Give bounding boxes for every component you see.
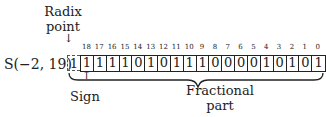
bit-index: 18 bbox=[80, 43, 93, 52]
bit-cell: 1 bbox=[120, 56, 133, 71]
bit-index: 13 bbox=[144, 43, 157, 52]
sign-arrow-icon: ↑ bbox=[82, 70, 91, 81]
bit-cell: 1 bbox=[94, 56, 107, 71]
bit-cell: 1 bbox=[197, 56, 210, 71]
bit-index: 9 bbox=[196, 43, 209, 52]
bit-index: 1 bbox=[298, 43, 311, 52]
bit-index: 17 bbox=[93, 43, 106, 52]
bit-cell: 0 bbox=[222, 56, 235, 71]
bit-cell: 0 bbox=[209, 56, 222, 71]
bit-cell: 0 bbox=[274, 56, 287, 71]
radix-arrow-icon: ↓ bbox=[64, 33, 73, 44]
bit-index: 15 bbox=[119, 43, 132, 52]
sign-label: Sign bbox=[70, 89, 100, 104]
bit-index: 0 bbox=[311, 43, 324, 52]
bit-cell: 0 bbox=[299, 56, 312, 71]
bit-index: 7 bbox=[221, 43, 234, 52]
fractional-label-line1: Fractional bbox=[180, 83, 260, 98]
bit-index: 11 bbox=[170, 43, 183, 52]
bit-cell: 0 bbox=[248, 56, 261, 71]
bit-index: 10 bbox=[183, 43, 196, 52]
bit-index: 14 bbox=[131, 43, 144, 52]
implied-leading-bit: 1 bbox=[67, 55, 80, 71]
bit-cell: 0 bbox=[235, 56, 248, 71]
bit-register: 1 1 1 1 0 1 0 1 1 1 0 0 0 0 1 0 1 0 1 bbox=[80, 55, 326, 72]
bit-cell: 1 bbox=[184, 56, 197, 71]
bit-index: 16 bbox=[106, 43, 119, 52]
format-label: S(−2, 19) bbox=[4, 56, 72, 72]
bit-cell: 1 bbox=[171, 56, 184, 71]
bit-cell: 1 bbox=[287, 56, 300, 71]
fractional-label-line2: part bbox=[180, 98, 260, 113]
bit-index: 8 bbox=[208, 43, 221, 52]
bit-cell: 0 bbox=[132, 56, 145, 71]
bit-index-row: 18 17 16 15 14 13 12 11 10 9 8 7 6 5 4 3… bbox=[80, 43, 324, 52]
bit-cell: 1 bbox=[261, 56, 274, 71]
bit-cell: 0 bbox=[158, 56, 171, 71]
bit-index: 4 bbox=[260, 43, 273, 52]
radix-label-line2: point bbox=[40, 19, 86, 34]
bit-index: 3 bbox=[273, 43, 286, 52]
bit-index: 6 bbox=[234, 43, 247, 52]
bit-cell: 1 bbox=[312, 56, 325, 71]
bit-cell: 1 bbox=[145, 56, 158, 71]
bit-index: 12 bbox=[157, 43, 170, 52]
radix-point-label: Radix point bbox=[40, 4, 86, 34]
bit-cell: 1 bbox=[107, 56, 120, 71]
radix-label-line1: Radix bbox=[40, 4, 86, 19]
bit-index: 5 bbox=[247, 43, 260, 52]
bit-index: 2 bbox=[286, 43, 299, 52]
fractional-part-label: Fractional part bbox=[180, 83, 260, 113]
